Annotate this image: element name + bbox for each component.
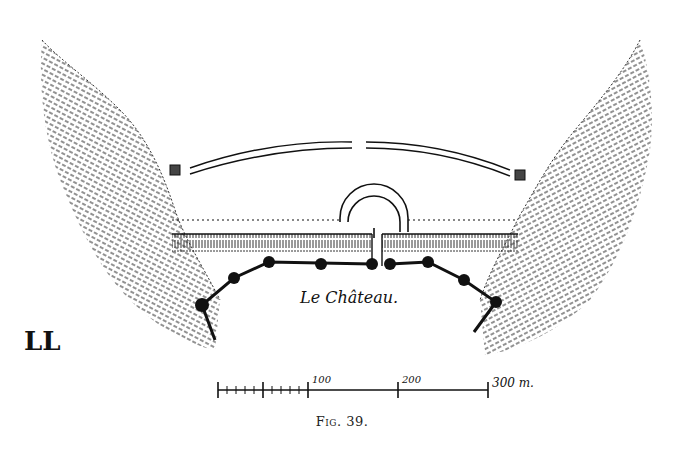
- rampart-end-right: [515, 170, 525, 180]
- rampart-end-left: [170, 165, 180, 175]
- left-hillside: [41, 40, 220, 350]
- scale-label-200: 200: [402, 374, 421, 385]
- artist-monogram: LL: [24, 326, 61, 356]
- figure-caption: Fig. 39.: [0, 414, 684, 429]
- right-hillside: [480, 40, 652, 355]
- tower: [366, 258, 378, 270]
- tower: [422, 256, 434, 268]
- tower: [384, 258, 396, 270]
- tower: [263, 256, 275, 268]
- place-label: Le Château.: [300, 288, 398, 307]
- caption-prefix: Fig.: [316, 414, 342, 429]
- scale-bar: [218, 382, 488, 398]
- tower: [315, 258, 327, 270]
- outer-rampart: [190, 142, 510, 176]
- scale-label-300: 300 m.: [492, 376, 534, 390]
- scale-label-100: 100: [312, 374, 331, 385]
- castle-plan-figure: [0, 0, 684, 460]
- tower: [228, 272, 240, 284]
- tower: [490, 296, 502, 308]
- tower: [458, 274, 470, 286]
- caption-number: 39.: [346, 414, 368, 429]
- ditch-band: [172, 234, 518, 266]
- tower: [195, 298, 209, 312]
- semicircular-bastion: [340, 184, 408, 238]
